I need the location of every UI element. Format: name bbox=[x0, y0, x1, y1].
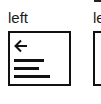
text-line-2 bbox=[14, 67, 39, 70]
option-label-partial: le bbox=[93, 10, 101, 25]
arrow-left-icon bbox=[14, 39, 28, 53]
option-partial-preview[interactable] bbox=[93, 31, 101, 86]
label-fragment-above bbox=[94, 0, 101, 2]
option-left-preview[interactable] bbox=[8, 31, 71, 86]
option-label-left: left bbox=[8, 10, 28, 25]
text-line-3 bbox=[14, 75, 50, 78]
text-line-1 bbox=[14, 59, 44, 62]
